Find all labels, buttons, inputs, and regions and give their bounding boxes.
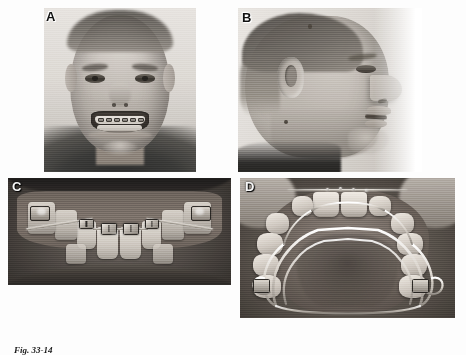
panel-b-ear-concha <box>285 65 297 86</box>
panel-c-highlight-center <box>111 232 124 236</box>
panel-d-molar-band-left <box>253 279 270 294</box>
panel-a-bracket-1 <box>98 118 104 123</box>
panel-a-bracket-2 <box>106 118 112 123</box>
panel-d-maxillary-occlusal-photo: D <box>240 178 455 318</box>
panel-b-background-fade <box>374 8 422 172</box>
panel-b-nevus-lower <box>284 120 288 124</box>
panel-a-bracket-5 <box>130 118 136 123</box>
panel-d-bow-bead-3 <box>352 188 355 191</box>
panel-b-eye <box>356 65 376 72</box>
panel-label-b: B <box>242 11 251 24</box>
panel-d-palatal-vault <box>296 234 399 307</box>
panel-d-tooth-lateral-left <box>292 196 314 216</box>
panel-d-tooth-central-right <box>341 192 367 217</box>
figure-caption: Fig. 33-14 <box>14 345 444 355</box>
panel-d-bow-bead-2 <box>339 187 342 190</box>
panel-b-lateral-profile-photo: B <box>238 8 422 172</box>
panel-c-bracket-central-right <box>123 223 139 235</box>
panel-c-bracket-lateral-left <box>79 219 93 230</box>
panel-d-tooth-lateral-right <box>369 196 391 216</box>
panel-a-chin <box>102 141 138 156</box>
panel-d-tooth-canine-right <box>391 213 415 234</box>
panel-c-bracket-lateral-right <box>145 219 159 230</box>
panel-d-tooth-premolar1-left <box>257 233 283 255</box>
panel-d-bow-bead-4 <box>365 189 368 192</box>
panel-a-frontal-smile-photo: A <box>44 8 196 172</box>
figure-caption-line: Fig. 33-14 <box>14 345 444 355</box>
panel-d-tooth-central-left <box>313 192 339 217</box>
panel-label-c: C <box>12 180 21 193</box>
panel-d-bow-bead-1 <box>326 188 329 191</box>
panel-d-molar-band-right <box>412 279 429 294</box>
panel-d-tooth-premolar2-left <box>253 254 279 276</box>
panel-a-bracket-6 <box>138 118 144 123</box>
panel-label-a: A <box>46 10 55 23</box>
panel-d-tooth-premolar1-right <box>397 233 423 255</box>
figure-plate: A B <box>0 0 466 355</box>
figure-number: Fig. 33-14 <box>14 345 53 355</box>
panel-a-bracket-3 <box>114 118 120 123</box>
panel-d-tooth-premolar2-right <box>401 254 427 276</box>
panel-label-d: D <box>245 180 254 193</box>
panel-b-shirt <box>238 142 341 172</box>
panel-c-intraoral-frontal-photo: C <box>8 178 231 285</box>
panel-d-tooth-canine-left <box>266 213 290 234</box>
panel-a-ear-left <box>65 64 77 92</box>
panel-c-lower-tooth-left <box>66 244 86 263</box>
panel-a-bracket-4 <box>122 118 128 123</box>
panel-c-lower-tooth-right <box>153 244 173 263</box>
panel-b-nape-hairline <box>240 51 280 117</box>
panel-b-nevus-upper <box>308 24 312 28</box>
panel-a-mouth <box>91 111 149 132</box>
